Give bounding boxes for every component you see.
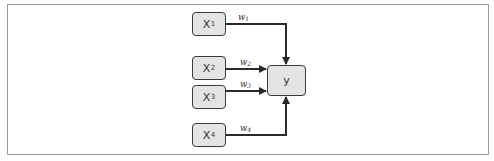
output-node-y: y	[267, 65, 306, 96]
weight-label-w1: w1	[238, 12, 249, 22]
node-label: X	[203, 91, 211, 104]
weight-subscript: 4	[247, 126, 251, 133]
node-subscript: 4	[211, 131, 215, 139]
weight-label-w3: w3	[240, 79, 251, 89]
node-label: X	[203, 129, 211, 142]
input-node-x2: X2	[192, 56, 226, 80]
weight-subscript: 3	[247, 82, 251, 89]
node-label: y	[283, 74, 290, 87]
node-label: X	[203, 62, 211, 75]
input-node-x3: X3	[192, 85, 226, 109]
node-subscript: 3	[211, 93, 215, 101]
weight-subscript: 2	[247, 60, 251, 67]
edge-x4-y	[226, 97, 286, 135]
weight-label-w2: w2	[240, 57, 251, 67]
weight-label-w4: w4	[240, 123, 251, 133]
node-subscript: 2	[211, 64, 215, 72]
weight-subscript: 1	[245, 15, 249, 22]
input-node-x1: X1	[192, 12, 226, 36]
edge-x1-y	[226, 24, 286, 64]
node-subscript: 1	[211, 20, 215, 28]
input-node-x4: X4	[192, 123, 226, 147]
node-label: X	[203, 18, 211, 31]
